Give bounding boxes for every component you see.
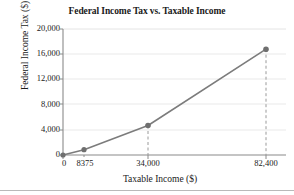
data-point — [60, 152, 65, 157]
gridlines — [63, 29, 286, 130]
data-point — [145, 123, 151, 129]
drop-lines — [148, 49, 266, 155]
plot-area — [0, 0, 294, 195]
data-point — [81, 147, 86, 152]
footer-divider — [0, 190, 294, 191]
data-point — [263, 46, 269, 52]
data-line — [63, 49, 266, 155]
axis-lines — [63, 29, 286, 155]
data-markers — [60, 46, 268, 157]
x-tick-marks — [63, 155, 266, 159]
chart-figure: Federal Income Tax vs. Taxable Income Fe… — [0, 0, 294, 195]
y-tick-marks — [59, 29, 63, 155]
